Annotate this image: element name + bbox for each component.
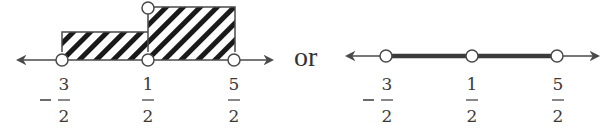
number-line-figure: 3 2 1 2 5 2 or 3 2 1: [0, 0, 604, 129]
open-point-neg-3-2-right: [380, 50, 392, 62]
svg-text:5: 5: [553, 74, 564, 94]
open-point-1-2-right: [466, 50, 478, 62]
hatched-region-short: [62, 32, 148, 60]
label-neg-3-2-right: 3 2: [363, 74, 393, 126]
open-point-1-2: [142, 54, 154, 66]
label-neg-3-2: 3 2: [40, 74, 70, 126]
label-1-2: 1 2: [142, 74, 154, 126]
open-point-top: [142, 2, 154, 14]
svg-text:2: 2: [59, 106, 70, 126]
svg-text:2: 2: [553, 106, 564, 126]
label-5-2: 5 2: [228, 74, 240, 126]
open-point-neg-3-2: [56, 54, 68, 66]
svg-text:1: 1: [467, 74, 478, 94]
open-point-5-2: [228, 54, 240, 66]
label-1-2-right: 1 2: [466, 74, 478, 126]
hatched-region-tall: [148, 7, 235, 60]
label-5-2-right: 5 2: [552, 74, 564, 126]
svg-text:5: 5: [229, 74, 240, 94]
svg-text:2: 2: [143, 106, 154, 126]
svg-text:1: 1: [143, 74, 154, 94]
svg-text:3: 3: [382, 74, 393, 94]
or-connector: or: [294, 41, 318, 72]
svg-text:2: 2: [382, 106, 393, 126]
svg-text:2: 2: [467, 106, 478, 126]
right-number-line: 3 2 1 2 5 2: [347, 50, 598, 126]
left-number-line: 3 2 1 2 5 2: [18, 2, 272, 126]
svg-text:2: 2: [229, 106, 240, 126]
svg-text:3: 3: [59, 74, 70, 94]
open-point-5-2-right: [551, 50, 563, 62]
